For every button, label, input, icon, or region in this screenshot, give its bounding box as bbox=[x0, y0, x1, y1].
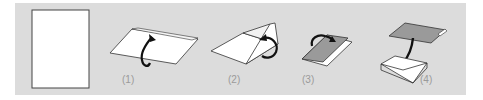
step-label-3: (3) bbox=[302, 74, 314, 85]
step-label-1: (1) bbox=[122, 74, 134, 85]
step3-illustration bbox=[302, 35, 352, 66]
step4-illustration bbox=[381, 23, 447, 83]
step1-illustration bbox=[110, 28, 198, 66]
step-label-4: (4) bbox=[420, 74, 432, 85]
step-label-2: (2) bbox=[228, 74, 240, 85]
step2-illustration bbox=[211, 23, 278, 64]
unfolded-sheet bbox=[32, 10, 89, 88]
folding-diagram bbox=[0, 0, 483, 100]
